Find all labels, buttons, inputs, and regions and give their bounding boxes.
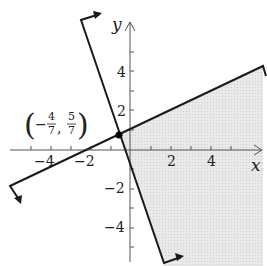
- y-axis-label: y: [111, 14, 122, 34]
- svg-text:(: (: [24, 107, 36, 142]
- x-tick-label: 4: [207, 153, 216, 169]
- svg-text:7: 7: [48, 124, 55, 137]
- svg-text:,: ,: [57, 120, 61, 136]
- x-tick-label: −2: [74, 153, 95, 169]
- arrowhead-icon: [93, 11, 102, 19]
- svg-text:−: −: [35, 116, 47, 132]
- svg-text:7: 7: [68, 124, 75, 137]
- intersection-point: [116, 132, 123, 139]
- svg-text:): ): [77, 107, 89, 142]
- y-tick-label: −4: [104, 219, 125, 235]
- y-tick-label: −2: [104, 180, 125, 196]
- svg-text:4: 4: [48, 110, 55, 123]
- y-tick-label: 4: [117, 64, 126, 80]
- y-tick-label: 2: [117, 103, 126, 119]
- x-tick-label: 2: [167, 153, 176, 169]
- shaded-region: [119, 66, 263, 266]
- intersection-label: ( − 4 7 , 5 7 ): [24, 107, 89, 142]
- inequality-graph: y x −4 −2 2 4 4 2 −2 −4 ( − 4 7 , 5 7 ): [0, 0, 267, 266]
- svg-text:5: 5: [68, 110, 75, 123]
- x-axis-label: x: [251, 155, 261, 175]
